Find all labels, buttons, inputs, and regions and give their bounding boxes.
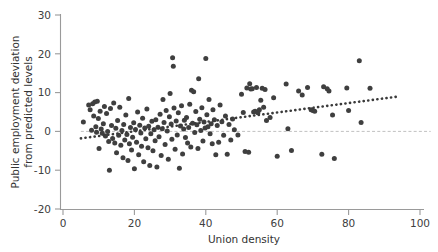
scatter-point [137,123,142,128]
scatter-point [88,107,93,112]
scatter-point [177,166,182,171]
scatter-point [241,110,246,115]
scatter-point [289,148,294,153]
scatter-point [91,113,96,118]
scatter-point [127,141,132,146]
x-axis-ticks: 020406080100 [60,210,430,230]
scatter-point [191,89,196,94]
scatter-point [163,142,168,147]
scatter-point [204,112,209,117]
scatter-point [89,128,94,133]
scatter-point [305,85,310,90]
y-axis-ticks: -20-100102030 [34,9,61,215]
y-axis-title-line2: from predicted levels [22,56,34,167]
scatter-point [185,141,190,146]
scatter-point [174,118,179,123]
scatter-point [144,106,149,111]
scatter-point [239,92,244,97]
scatter-point [110,136,115,141]
scatter-point [95,99,100,104]
scatter-point [104,111,109,116]
scatter-point [101,121,106,126]
y-tick-label: 30 [38,9,51,21]
x-tick-label: 60 [271,217,284,229]
scatter-point [131,120,136,125]
scatter-point [141,159,146,164]
scatter-point [300,92,305,97]
scatter-point [120,155,125,160]
scatter-point [134,140,139,145]
scatter-point [93,124,98,129]
scatter-point [135,110,140,115]
scatter-point [139,144,144,149]
scatter-point [117,105,122,110]
scatter-point [153,117,158,122]
scatter-chart-figure: -20-100102030 020406080100 Union density… [0,0,438,252]
x-axis-title: Union density [208,233,280,245]
scatter-point [94,130,99,135]
scatter-point [143,136,148,141]
scatter-point [235,132,240,137]
scatter-point [175,132,180,137]
scatter-point [165,129,170,134]
scatter-point [147,163,152,168]
scatter-point [203,56,208,61]
scatter-point [357,58,362,63]
scatter-point [221,133,226,138]
scatter-point [115,118,120,123]
y-tick-label: -10 [34,164,51,176]
scatter-point [285,126,290,131]
scatter-point [171,64,176,69]
scatter-point [132,166,137,171]
scatter-point [196,76,201,81]
scatter-point [154,165,159,170]
scatter-point [140,116,145,121]
trend-line-segment [81,96,399,138]
scatter-point [150,148,155,153]
scatter-point [225,152,230,157]
x-tick-label: 20 [128,217,141,229]
scatter-point [184,115,189,120]
scatter-points-layer [81,55,373,173]
trend-line [81,96,399,138]
scatter-point [208,131,213,136]
scatter-point [170,55,175,60]
scatter-point [275,154,280,159]
x-tick-label: 40 [199,217,212,229]
scatter-point [123,113,128,118]
scatter-point [109,123,114,128]
scatter-point [113,126,118,131]
scatter-point [344,85,349,90]
scatter-point [96,116,101,121]
scatter-point [330,113,335,118]
scatter-point [106,139,111,144]
scatter-point [227,122,232,127]
scatter-point [258,98,263,103]
scatter-point [246,150,251,155]
scatter-point [228,137,233,142]
scatter-point [257,107,262,112]
scatter-point [169,137,174,142]
scatter-point [218,103,223,108]
y-tick-label: 10 [38,86,51,98]
scatter-point [181,127,186,132]
scatter-point [112,141,117,146]
scatter-point [223,113,228,118]
scatter-point [176,110,181,115]
scatter-point [125,158,130,163]
scatter-point [250,86,255,91]
scatter-point [359,120,364,125]
scatter-point [332,156,337,161]
scatter-point [166,157,171,162]
scatter-point [99,127,104,132]
scatter-point [153,138,158,143]
scatter-point [207,97,212,102]
scatter-point [81,120,86,125]
scatter-point [164,108,169,113]
scatter-point [197,117,202,122]
scatter-point [102,104,107,109]
scatter-point [192,130,197,135]
scatter-point [216,140,221,145]
scatter-point [128,125,133,130]
scatter-point [319,152,324,157]
